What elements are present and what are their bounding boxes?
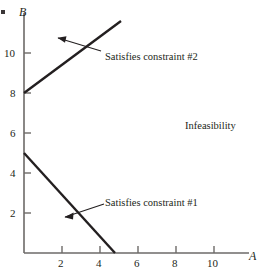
constraint1-annotation-label: Satisfies constraint #1 (105, 197, 198, 208)
constraint2-annotation-label: Satisfies constraint #2 (105, 51, 198, 62)
x-tick-label-2: 2 (58, 257, 64, 269)
x-tick-label-8: 8 (172, 257, 178, 269)
x-tick-label-6: 6 (134, 257, 140, 269)
y-tick-label-10: 10 (4, 47, 15, 59)
infeasibility-region-label: Infeasibility (185, 120, 236, 131)
y-axis-title: B (19, 5, 26, 20)
y-tick-label-8: 8 (10, 87, 16, 99)
x-tick-label-10: 10 (207, 257, 218, 269)
x-axis-title: A (249, 249, 256, 264)
y-axis-ticks (24, 53, 31, 213)
constraint1-arrow (65, 204, 105, 219)
x-tick-label-4: 4 (96, 257, 102, 269)
constraint2-arrow (58, 36, 102, 51)
plot-canvas (0, 0, 258, 273)
constraint1-line (24, 153, 115, 253)
constraint-plot-figure: B A 10 8 6 4 2 2 4 6 8 10 Satisfies cons… (0, 0, 258, 273)
y-tick-label-2: 2 (10, 207, 16, 219)
y-tick-label-4: 4 (10, 167, 16, 179)
y-tick-label-6: 6 (10, 127, 16, 139)
x-axis-ticks (62, 246, 214, 253)
